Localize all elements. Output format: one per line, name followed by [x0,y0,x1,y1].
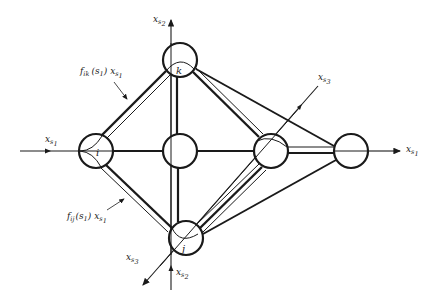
label-xs3-bottom: xs3 [126,252,139,266]
edge-j-farright [203,160,336,234]
edge-k-rightmid [193,68,263,137]
edge-rightmid-farright [287,147,334,153]
edges [101,68,336,234]
node-label-i: i [96,147,99,158]
svg-text:fij(s1)xs1: fij(s1)xs1 [66,211,107,225]
edge-i-j [101,165,172,232]
edge-i-k [102,71,170,139]
label-xs2-bottom: xs2 [176,267,189,281]
label-xs3-top: xs3 [318,72,331,86]
annotation-fik: fik(s1)xs1 [79,66,127,99]
label-xs1-right: xs1 [406,144,419,158]
label-xs2-top: xs2 [153,14,166,28]
annotation-fij: fij(s1)xs1 [66,199,124,225]
node-label-k: k [176,65,182,76]
label-xs1-left: xs1 [45,134,58,148]
node-center [163,134,197,168]
edge-j-rightmid [197,164,266,232]
svg-text:fik(s1)xs1: fik(s1)xs1 [79,66,123,80]
network-flow-diagram: k i j xs2 xs1 xs1 xs3 xs3 xs2 fik(s1)xs1… [0,0,432,305]
